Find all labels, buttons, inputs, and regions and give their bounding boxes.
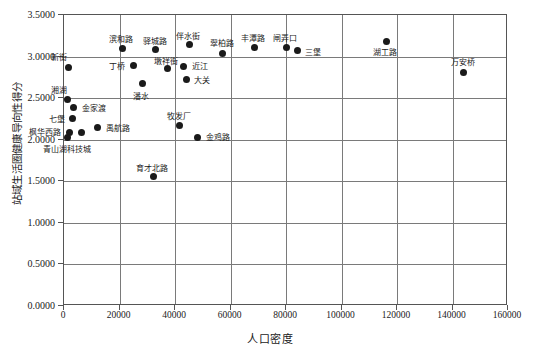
y-axis-tick <box>58 97 63 98</box>
data-point-label: 金家渡 <box>82 104 106 113</box>
x-axis-tick-label: 0 <box>61 310 66 321</box>
data-point <box>283 44 290 51</box>
y-axis-tick <box>58 263 63 264</box>
data-point <box>78 129 85 136</box>
data-point-label: 金鸡路 <box>206 133 230 142</box>
x-axis-tick-label: 20000 <box>107 310 131 321</box>
data-point-label: 三堡 <box>305 48 321 57</box>
data-point <box>383 38 390 45</box>
x-axis-tick-label: 140000 <box>437 310 466 321</box>
x-axis-tick-label: 80000 <box>273 310 297 321</box>
data-point-label: 七堡 <box>49 115 65 124</box>
y-axis-tick <box>58 180 63 181</box>
data-point-label: 伴水街 <box>176 32 200 41</box>
y-axis-tick <box>58 139 63 140</box>
gridline-vertical <box>231 15 232 304</box>
data-point <box>119 45 126 52</box>
data-point <box>219 50 226 57</box>
y-axis-tick-label: 3.5000 <box>28 9 56 20</box>
data-point-label: 新街 <box>51 53 67 62</box>
data-point-label: 湖工路 <box>373 48 397 57</box>
data-point <box>64 134 71 141</box>
y-axis-tick <box>58 305 63 306</box>
y-axis-title: 站域生活圈健康导向性得分 <box>9 34 24 254</box>
x-axis-tick-label: 100000 <box>326 310 355 321</box>
data-point-label: 闸弄口 <box>273 34 297 43</box>
data-point-label: 育才北路 <box>136 164 168 173</box>
data-point-label: 牧发厂 <box>167 112 191 121</box>
y-axis-tick-label: 0.0000 <box>28 300 56 311</box>
y-axis-tick <box>58 14 63 15</box>
gridline-horizontal <box>64 98 506 99</box>
gridline-vertical <box>342 15 343 304</box>
data-point-label: 青山湖科技城 <box>43 145 91 154</box>
data-point <box>139 80 146 87</box>
data-point <box>294 47 301 54</box>
y-axis-tick-label: 1.5000 <box>28 175 56 186</box>
y-axis-tick-label: 0.5000 <box>28 258 56 269</box>
data-point-label: 滨和路 <box>109 35 133 44</box>
scatter-chart: 站域生活圈健康导向性得分 人口密度 0200004000060000800001… <box>0 0 540 361</box>
data-point-label: 大关 <box>194 76 210 85</box>
gridline-vertical <box>286 15 287 304</box>
x-axis-tick-label: 40000 <box>162 310 186 321</box>
data-point-label: 枫华西路 <box>29 128 61 137</box>
gridline-horizontal <box>64 140 506 141</box>
data-point-label: 湘湖 <box>51 86 67 95</box>
plot-area <box>63 14 507 305</box>
x-axis-tick-label: 160000 <box>493 310 522 321</box>
data-point-label: 丰潭路 <box>241 34 265 43</box>
gridline-vertical <box>397 15 398 304</box>
data-point <box>176 122 183 129</box>
y-axis-tick <box>58 222 63 223</box>
data-point-label: 潘水 <box>133 92 149 101</box>
gridline-horizontal <box>64 264 506 265</box>
gridline-horizontal <box>64 57 506 58</box>
data-point-label: 万安桥 <box>451 58 475 67</box>
x-axis-tick-label: 120000 <box>382 310 411 321</box>
data-point <box>186 41 193 48</box>
data-point-label: 近江 <box>192 62 208 71</box>
gridline-horizontal <box>64 223 506 224</box>
data-point-label: 驿城路 <box>143 37 167 46</box>
x-axis-title: 人口密度 <box>0 330 540 346</box>
data-point-label: 禹航路 <box>106 124 130 133</box>
gridline-horizontal <box>64 181 506 182</box>
x-axis-tick-label: 60000 <box>218 310 242 321</box>
data-point-label: 翠柏路 <box>210 39 234 48</box>
y-axis-tick-label: 1.0000 <box>28 216 56 227</box>
data-point <box>194 134 201 141</box>
data-point-label: 墩祥街 <box>154 57 178 66</box>
data-point-label: 丁桥 <box>109 62 125 71</box>
gridline-vertical <box>120 15 121 304</box>
data-point <box>251 44 258 51</box>
data-point <box>65 64 72 71</box>
